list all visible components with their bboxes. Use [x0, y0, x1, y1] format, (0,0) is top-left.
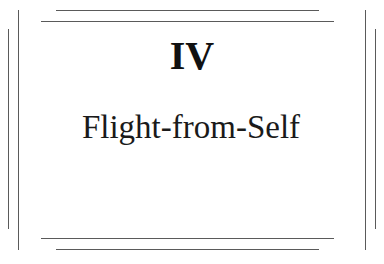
bottom-border-rule-inner	[56, 249, 319, 250]
top-border-rule-inner	[56, 10, 319, 11]
chapter-title: Flight-from-Self	[0, 107, 382, 147]
chapter-numeral: IV	[0, 34, 384, 78]
bottom-border-rule-outer	[41, 238, 334, 239]
top-border-rule-outer	[41, 21, 334, 22]
